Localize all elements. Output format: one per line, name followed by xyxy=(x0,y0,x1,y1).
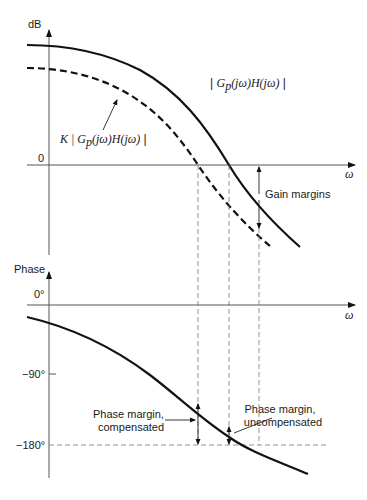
gain-margins-label: Gain margins xyxy=(265,188,331,200)
phase-margin-uncompensated-label-line2: uncompensated xyxy=(244,416,322,428)
phase-margin-compensated-label-line2: compensated xyxy=(98,421,164,433)
phase-plot: Phase 0° ω −90° −180° Phase margin, comp… xyxy=(14,263,355,478)
omega-label-phase: ω xyxy=(345,308,353,322)
bode-diagram: dB 0 ω | Gp(jω)H(jω) | K | Gp(jω)H(jω) |… xyxy=(0,0,367,500)
phase-curve xyxy=(27,317,308,474)
uncompensated-magnitude-label: | Gp(jω)H(jω) | xyxy=(210,76,286,93)
compensated-magnitude-curve xyxy=(27,68,270,246)
tick-neg180-deg: −180° xyxy=(16,439,45,451)
magnitude-plot: dB 0 ω | Gp(jω)H(jω) | K | Gp(jω)H(jω) |… xyxy=(27,18,355,255)
phase-axis-label: Phase xyxy=(14,263,45,275)
compensated-magnitude-label: K | Gp(jω)H(jω) | xyxy=(59,132,147,149)
phase-margin-uncompensated-label-line1: Phase margin, xyxy=(245,403,316,415)
db-axis-label: dB xyxy=(28,18,41,30)
compensated-label-leader-arrow xyxy=(103,100,117,130)
zero-db-label: 0 xyxy=(38,152,44,164)
tick-0-deg: 0° xyxy=(34,288,45,300)
tick-neg90-deg: −90° xyxy=(22,368,45,380)
omega-label-magnitude: ω xyxy=(345,167,353,181)
phase-margin-compensated-label-line1: Phase margin, xyxy=(93,408,164,420)
